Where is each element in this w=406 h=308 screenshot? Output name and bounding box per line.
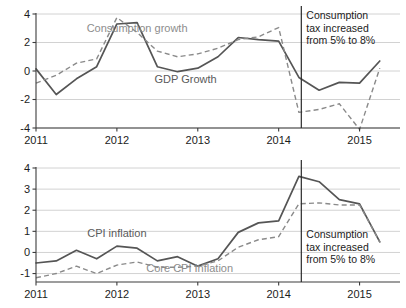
y-tick-label--2: -2 — [20, 93, 30, 105]
y-tick-label-4: 4 — [24, 162, 30, 174]
tax-increase-annotation-line-3: from 5% to 8% — [306, 34, 375, 46]
x-tick-label-2011: 2011 — [24, 288, 48, 300]
growth-x-tick-labels: 20112012201320142015 — [24, 134, 372, 146]
inflation-chart-svg: 43210-1 20112012201320142015 Consumption… — [0, 154, 406, 308]
growth-chart-panel: 420-2-4 20112012201320142015 Consumption… — [0, 0, 406, 154]
growth-event-marker: Consumptiontax increasedfrom 5% to 8% — [301, 6, 375, 128]
inflation-event-marker: Consumptiontax increasedfrom 5% to 8% — [301, 160, 375, 282]
tax-increase-annotation-line-1: Consumption — [306, 9, 368, 21]
tax-increase-annotation-line-1: Consumption — [306, 228, 368, 240]
tax-increase-annotation-line-2: tax increased — [306, 22, 369, 34]
y-tick-label-2: 2 — [24, 204, 30, 216]
y-tick-label-0: 0 — [24, 65, 30, 77]
inflation-x-tick-labels: 20112012201320142015 — [24, 288, 372, 300]
x-tick-label-2015: 2015 — [347, 288, 371, 300]
y-tick-label-4: 4 — [24, 8, 30, 20]
dual-line-chart-figure: 420-2-4 20112012201320142015 Consumption… — [0, 0, 406, 308]
x-tick-label-2011: 2011 — [24, 134, 48, 146]
y-tick-label--1: -1 — [20, 267, 30, 279]
x-tick-label-2014: 2014 — [266, 134, 290, 146]
tax-increase-annotation-line-3: from 5% to 8% — [306, 253, 375, 265]
growth-y-tick-labels: 420-2-4 — [20, 8, 30, 134]
y-tick-label-3: 3 — [24, 183, 30, 195]
x-tick-label-2014: 2014 — [266, 288, 290, 300]
inflation-y-tick-labels: 43210-1 — [20, 162, 30, 280]
y-tick-label-1: 1 — [24, 225, 30, 237]
tax-increase-annotation-line-2: tax increased — [306, 241, 369, 253]
x-tick-label-2015: 2015 — [347, 134, 371, 146]
x-tick-label-2012: 2012 — [105, 134, 129, 146]
series-label-core-cpi-inflation: Core CPI Inflation — [146, 262, 233, 274]
y-tick-label-2: 2 — [24, 36, 30, 48]
inflation-chart-panel: 43210-1 20112012201320142015 Consumption… — [0, 154, 406, 308]
growth-chart-svg: 420-2-4 20112012201320142015 Consumption… — [0, 0, 406, 154]
x-tick-label-2012: 2012 — [105, 288, 129, 300]
series-label-consumption-growth: Consumption growth — [87, 22, 188, 34]
x-tick-label-2013: 2013 — [186, 134, 210, 146]
y-tick-label--4: -4 — [20, 122, 30, 134]
series-label-cpi-inflation: CPI inflation — [87, 227, 146, 239]
y-tick-label-0: 0 — [24, 246, 30, 258]
x-tick-label-2013: 2013 — [186, 288, 210, 300]
series-label-gdp-growth: GDP Growth — [155, 73, 217, 85]
